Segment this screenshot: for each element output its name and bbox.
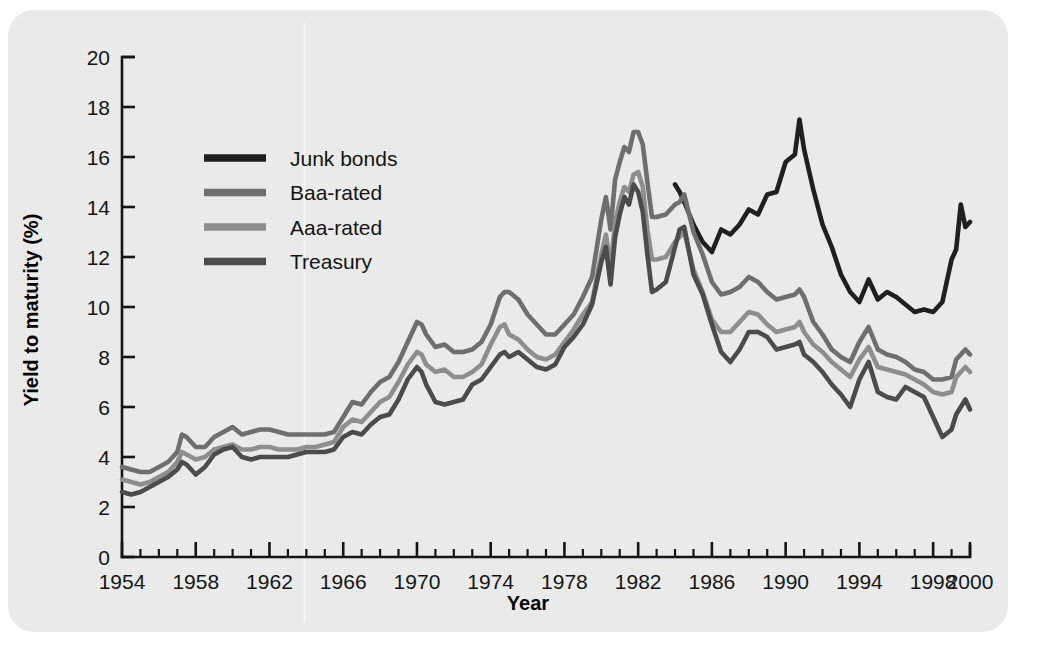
y-tick-label: 10 xyxy=(87,296,110,319)
x-tick-label: 1954 xyxy=(99,570,146,593)
axis-lines xyxy=(122,57,970,557)
x-tick-label: 1966 xyxy=(320,570,367,593)
x-tick-label: 1986 xyxy=(689,570,736,593)
y-tick-label: 6 xyxy=(98,396,110,419)
y-tick-label: 12 xyxy=(87,246,110,269)
x-tick-label: 1978 xyxy=(541,570,588,593)
x-tick-label: 1970 xyxy=(394,570,441,593)
series-line-junk-bonds xyxy=(675,120,970,313)
y-axis-title: Yield to maturity (%) xyxy=(20,214,42,407)
y-tick-label: 2 xyxy=(98,496,110,519)
data-series-group xyxy=(122,120,970,495)
legend-label-2: Aaa-rated xyxy=(290,216,382,239)
figure-panel: 02468101214161820 1954195819621966197019… xyxy=(8,10,1008,632)
yield-to-maturity-line-chart: 02468101214161820 1954195819621966197019… xyxy=(8,10,1008,632)
x-tick-label: 2000 xyxy=(947,570,994,593)
y-tick-label: 16 xyxy=(87,146,110,169)
legend-label-0: Junk bonds xyxy=(290,147,397,170)
y-tick-label: 4 xyxy=(98,446,110,469)
x-tick-label: 1990 xyxy=(762,570,809,593)
x-axis-ticks: 1954195819621966197019741978198219861990… xyxy=(99,542,994,593)
y-tick-label: 18 xyxy=(87,96,110,119)
y-tick-label: 8 xyxy=(98,346,110,369)
y-tick-label: 0 xyxy=(98,546,110,569)
y-tick-label: 14 xyxy=(87,196,111,219)
x-axis-title: Year xyxy=(507,592,549,614)
x-tick-label: 1994 xyxy=(836,570,883,593)
chart-legend: Junk bondsBaa-ratedAaa-ratedTreasury xyxy=(204,147,397,274)
series-line-aaa-rated xyxy=(122,172,970,485)
legend-label-3: Treasury xyxy=(290,250,373,273)
series-line-baa-rated xyxy=(122,132,970,472)
x-tick-label: 1982 xyxy=(615,570,662,593)
y-axis-ticks: 02468101214161820 xyxy=(87,46,135,569)
y-tick-label: 20 xyxy=(87,46,110,69)
x-tick-label: 1974 xyxy=(467,570,514,593)
x-tick-label: 1958 xyxy=(172,570,219,593)
x-tick-label: 1962 xyxy=(246,570,293,593)
legend-label-1: Baa-rated xyxy=(290,181,382,204)
